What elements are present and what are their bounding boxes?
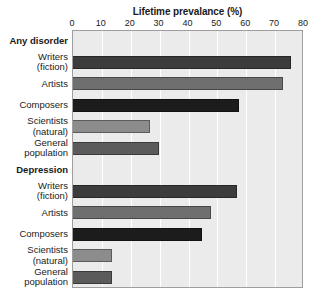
bar <box>72 228 202 241</box>
bar-row-label: Scientists(natural) <box>0 245 68 267</box>
bar-row-label-line: (natural) <box>33 127 68 137</box>
bar-row-label-line: (fiction) <box>37 62 68 72</box>
bar-row: Generalpopulation <box>0 267 317 289</box>
bar-row: Artists <box>0 73 317 95</box>
x-tick-label-30: 30 <box>146 18 172 28</box>
group-label-text: Any disorder <box>9 36 68 46</box>
bar <box>72 206 211 219</box>
x-tick-label-10: 10 <box>88 18 114 28</box>
bar-row-label: Writers(fiction) <box>0 52 68 74</box>
bar-row-label: Generalpopulation <box>0 267 68 289</box>
x-tick-label-60: 60 <box>232 18 258 28</box>
bar-row: Writers(fiction) <box>0 52 317 74</box>
group-label: Depression <box>0 159 68 181</box>
bar-row: Generalpopulation <box>0 138 317 160</box>
bar-row-label-line: Artists <box>42 208 68 218</box>
bar-row-label-line: (natural) <box>33 256 68 266</box>
x-tick-label-50: 50 <box>203 18 229 28</box>
x-tick-label-70: 70 <box>261 18 287 28</box>
bar-row-label-line: Artists <box>42 79 68 89</box>
bar <box>72 271 112 284</box>
bar-row: Composers <box>0 95 317 117</box>
bar-row: Scientists(natural) <box>0 245 317 267</box>
bar-row: Scientists(natural) <box>0 116 317 138</box>
chart-container: Lifetime prevalance (%) 0102030405060708… <box>0 0 317 304</box>
group-header-row: Depression <box>0 159 317 181</box>
bar-row-label-line: population <box>24 277 68 287</box>
bar-row-label-line: (fiction) <box>37 191 68 201</box>
bar-row-label: Generalpopulation <box>0 138 68 160</box>
bar <box>72 185 237 198</box>
bar-row-label-line: Composers <box>19 229 68 239</box>
bar-row-label: Artists <box>0 73 68 95</box>
bar-row-label: Artists <box>0 202 68 224</box>
bar <box>72 249 112 262</box>
bar-rows: Any disorderWriters(fiction)ArtistsCompo… <box>0 30 317 288</box>
bar-row-label-line: population <box>24 148 68 158</box>
bar-row: Artists <box>0 202 317 224</box>
x-tick-label-80: 80 <box>290 18 316 28</box>
group-label: Any disorder <box>0 30 68 52</box>
x-tick-label-20: 20 <box>117 18 143 28</box>
group-label-text: Depression <box>16 165 68 175</box>
bar <box>72 99 239 112</box>
bar <box>72 142 159 155</box>
bar <box>72 77 283 90</box>
bar-row-label-line: Composers <box>19 100 68 110</box>
chart-title: Lifetime prevalance (%) <box>72 6 303 17</box>
bar-row: Writers(fiction) <box>0 181 317 203</box>
x-tick-label-40: 40 <box>175 18 201 28</box>
x-tick-label-0: 0 <box>59 18 85 28</box>
bar-row-label: Writers(fiction) <box>0 181 68 203</box>
bar-row-label: Composers <box>0 224 68 246</box>
group-header-row: Any disorder <box>0 30 317 52</box>
bar-row-label: Composers <box>0 95 68 117</box>
x-axis-tick-labels: 01020304050607080 <box>0 18 317 30</box>
bar <box>72 56 291 69</box>
bar <box>72 120 150 133</box>
bar-row-label: Scientists(natural) <box>0 116 68 138</box>
bar-row: Composers <box>0 224 317 246</box>
